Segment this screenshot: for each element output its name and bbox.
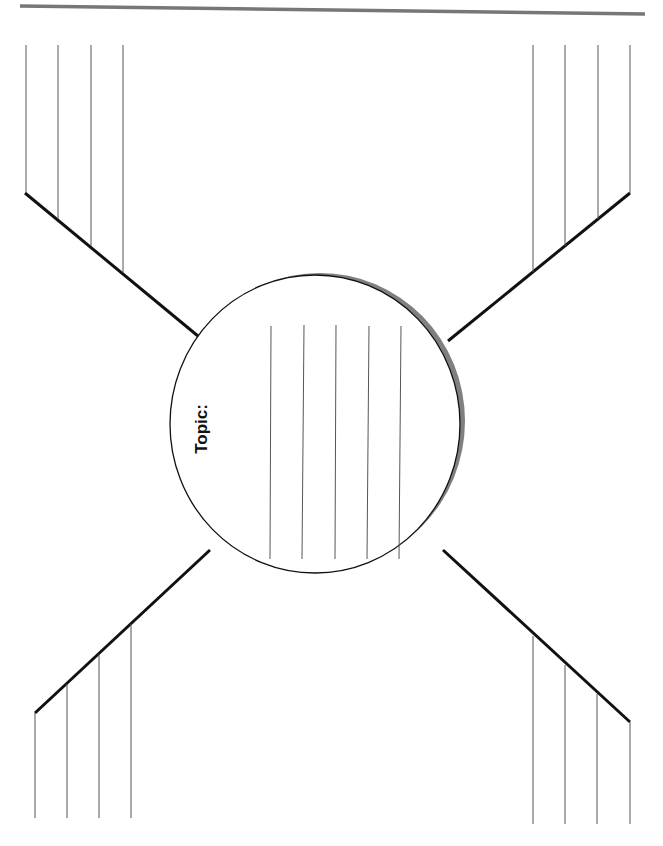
branch-leg <box>443 550 630 722</box>
branch-top-left <box>25 45 204 341</box>
branch-bottom-left <box>35 550 210 818</box>
branch-leg <box>25 193 204 341</box>
branch-leg <box>35 550 210 713</box>
branch-top-right <box>448 45 630 341</box>
center-topic-circle: Topic: <box>170 273 465 573</box>
spider-map-diagram: Topic: <box>0 0 663 846</box>
header-rule <box>20 6 645 14</box>
branch-bottom-right <box>443 550 630 824</box>
topic-label: Topic: <box>192 404 211 454</box>
branch-leg <box>448 193 630 341</box>
circle-body <box>170 275 460 573</box>
